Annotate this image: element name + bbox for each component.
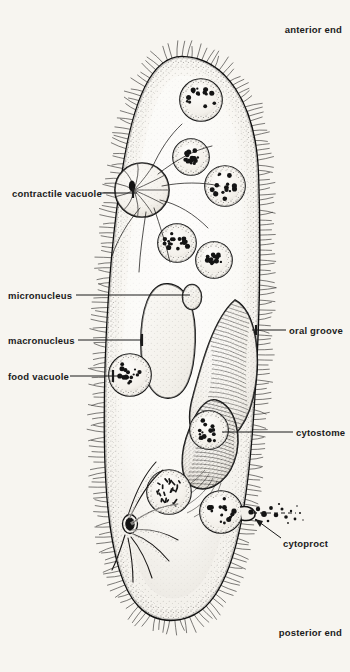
food-particle <box>198 429 202 433</box>
food-particle <box>229 190 231 192</box>
food-particle <box>193 162 196 165</box>
label-micronucleus: micronucleus <box>8 291 72 301</box>
food-particle <box>206 258 209 261</box>
food-particle <box>218 173 221 176</box>
food-particle <box>220 261 222 263</box>
label-posterior-end: posterior end <box>279 628 342 638</box>
food-particle <box>210 91 212 93</box>
food-particle <box>213 439 216 442</box>
label-cytoproct: cytoproct <box>283 539 328 549</box>
food-particle <box>120 362 124 366</box>
food-particle <box>230 515 232 517</box>
food-particle <box>186 95 191 100</box>
label-oral-groove: oral groove <box>289 326 343 336</box>
food-particle <box>134 368 136 370</box>
food-particle <box>199 437 201 439</box>
food-particle <box>192 91 195 94</box>
food-vacuole <box>196 242 232 278</box>
food-particle <box>209 505 214 510</box>
micronucleus-texture <box>183 285 202 310</box>
food-particle <box>210 424 214 428</box>
label-anterior-end: anterior end <box>285 25 342 35</box>
food-particle <box>201 420 204 423</box>
food-particle <box>130 376 134 380</box>
food-particle <box>205 92 208 95</box>
food-particle <box>186 100 189 103</box>
food-particle <box>162 484 164 489</box>
food-particle <box>199 433 201 435</box>
food-particle <box>222 505 227 510</box>
food-particle <box>176 247 180 251</box>
food-particle <box>129 380 133 384</box>
food-vacuole <box>200 491 242 533</box>
food-particle <box>176 484 178 488</box>
label-contractile-vacuole: contractile vacuole <box>12 189 102 199</box>
food-particle <box>203 423 207 427</box>
food-particle <box>219 505 223 509</box>
food-particle <box>196 88 198 90</box>
food-particle <box>232 183 237 188</box>
food-vacuole <box>205 166 245 206</box>
food-vacuole <box>190 411 228 449</box>
food-vacuole <box>180 79 222 121</box>
food-particle <box>119 366 124 371</box>
food-particle <box>224 188 228 192</box>
paramecium-figure: anterior end posterior end contractile v… <box>0 0 350 672</box>
food-particle <box>201 431 203 433</box>
food-particle <box>197 156 199 158</box>
food-particle <box>133 373 135 375</box>
food-vacuole <box>158 224 196 262</box>
food-particle <box>172 237 176 241</box>
food-particle <box>211 260 215 264</box>
food-particle <box>178 237 182 241</box>
food-particle <box>191 156 196 161</box>
food-particle <box>224 197 227 200</box>
food-particle <box>210 510 213 513</box>
contractile-vacuole <box>115 163 169 217</box>
food-particle <box>126 370 130 374</box>
food-vacuole <box>173 139 209 175</box>
food-particle <box>126 376 129 379</box>
food-particle <box>215 256 219 260</box>
label-macronucleus: macronucleus <box>8 336 75 346</box>
label-food-vacuole: food vacuole <box>8 372 69 382</box>
food-particle <box>231 509 236 514</box>
food-particle <box>227 173 232 178</box>
food-particle <box>213 191 218 196</box>
food-particle <box>212 432 216 436</box>
food-particle <box>203 104 207 108</box>
food-particle <box>137 370 141 374</box>
food-particle <box>211 428 215 432</box>
food-particle <box>207 438 212 443</box>
food-particle <box>220 514 223 517</box>
food-particle <box>196 91 200 95</box>
food-particle <box>212 101 216 105</box>
label-cytostome: cytostome <box>296 428 345 438</box>
food-particle <box>210 187 215 192</box>
food-vacuole <box>109 354 151 396</box>
food-particle <box>170 232 173 235</box>
contractile-vacuole-texture <box>115 163 169 217</box>
food-particle <box>223 497 226 500</box>
food-particle <box>223 522 226 525</box>
food-particle <box>226 183 229 186</box>
micronucleus <box>183 285 202 310</box>
food-particle <box>181 237 186 242</box>
food-particle <box>221 191 224 194</box>
food-particle <box>220 521 222 523</box>
food-particle <box>186 159 190 163</box>
